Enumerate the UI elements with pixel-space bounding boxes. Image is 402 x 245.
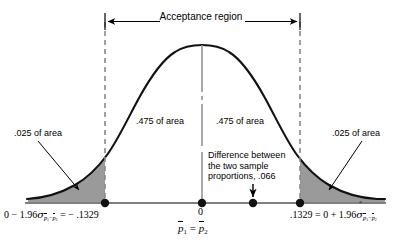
sigma-symbol-left: σ xyxy=(37,209,44,220)
right-sigma-subscript: p1−p2 xyxy=(363,214,377,221)
p-bar-2-subscript: 2 xyxy=(204,228,207,235)
difference-annotation: Difference between the two sample propor… xyxy=(208,150,285,182)
p-bar-1-subscript: 1 xyxy=(184,228,187,235)
left-tail-leader-line xyxy=(38,141,79,190)
right-critical-prefix: .1329 = 0 + 1.96 xyxy=(290,209,356,220)
left-inner-area-label: .475 of area xyxy=(136,116,184,127)
p-bar-1-symbol: p xyxy=(178,222,184,235)
right-tail-leader-line xyxy=(329,141,362,190)
right-inner-area-label: .475 of area xyxy=(216,116,264,127)
difference-annotation-line-1: Difference between xyxy=(208,150,285,161)
point-marker-left-critical xyxy=(101,199,109,207)
equality-sign: = xyxy=(190,222,196,234)
difference-annotation-line-2: the two sample xyxy=(208,161,285,172)
right-tail-area-label: .025 of area xyxy=(332,128,380,139)
left-tail-area-label: .025 of area xyxy=(14,128,62,139)
left-sigma-subscript: p1−p2 xyxy=(44,214,58,221)
normal-curve xyxy=(27,45,385,199)
point-marker-difference xyxy=(249,199,257,207)
p-bar-2-symbol: p xyxy=(199,222,205,235)
difference-annotation-line-3: proportions, .066 xyxy=(208,171,285,182)
left-critical-value-label: 0 − 1.96σp1−p2 = − .1329 xyxy=(4,209,99,222)
right-rejection-shading xyxy=(300,157,385,203)
acceptance-region-label: Acceptance region xyxy=(0,11,402,23)
right-critical-value-label: .1329 = 0 + 1.96ˆσp1−p2 xyxy=(290,209,377,222)
point-marker-right-critical xyxy=(296,199,304,207)
left-critical-value: = − .1329 xyxy=(60,209,99,220)
center-axis-value: 0 xyxy=(198,206,203,218)
left-critical-prefix: 0 − 1.96 xyxy=(4,209,37,220)
left-rejection-shading xyxy=(28,157,105,203)
center-proportion-equality: p1 = p2 xyxy=(178,222,208,236)
